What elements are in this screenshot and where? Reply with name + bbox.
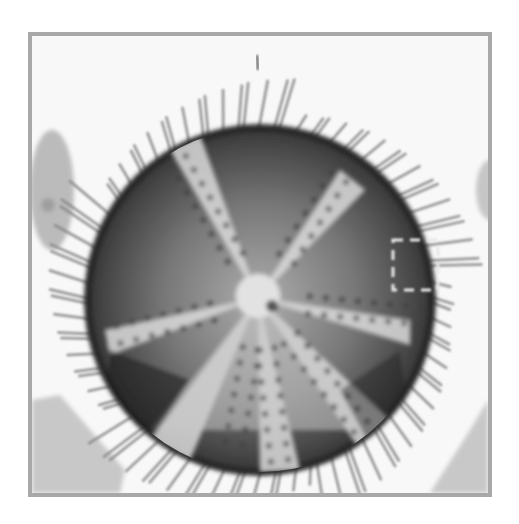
pore-dot [215,208,221,214]
neighbor-fragment-right [476,160,504,220]
pore-dot [254,363,260,369]
pore-dot [207,300,213,306]
pore-dot [294,224,300,230]
pore-dot [168,162,174,168]
pore-dot [266,443,272,449]
pore-dot [352,166,358,172]
pore-dot [199,181,205,187]
pore-dot [231,236,237,242]
pore-dot [328,170,334,176]
pore-dot [191,167,197,173]
pore-dot [320,183,326,189]
pore-dot [191,304,197,310]
pore-dot [176,176,182,182]
sea-urchin-illustration [0,0,519,524]
pore-dot [337,314,343,320]
pore-dot [331,404,337,410]
pore-dot [231,392,237,398]
pore-dot [291,260,297,266]
pore-dot [283,441,289,447]
pore-dot [311,197,317,203]
pore-dot [257,347,263,353]
pore-dot [102,344,108,350]
pore-dot [129,320,135,326]
pore-dot [264,427,270,433]
pore-dot [240,442,246,448]
pore-dot [308,233,314,239]
pore-dot [223,439,229,445]
pore-dot [371,300,377,306]
pore-dot [385,319,391,325]
pore-dot [351,429,357,435]
pore-dot [321,391,327,397]
pore-dot [217,245,223,251]
pore-dot [258,379,264,385]
pore-dot [242,426,248,432]
pore-dot [337,156,343,162]
pore-dot [285,237,291,243]
pore-dot [184,189,190,195]
pore-dot [133,336,139,342]
neighbor-fragment-bottom-right [430,400,488,493]
pore-dot [279,409,285,415]
pore-dot [417,322,423,328]
pore-dot [317,220,323,226]
pore-dot [145,316,151,322]
pore-dot [341,417,347,423]
pore-dot [113,323,119,329]
pore-dot [369,317,375,323]
pore-dot [326,206,332,212]
pore-dot [387,301,393,307]
pore-dot [281,425,287,431]
pore-dot [271,345,277,351]
pore-dot [164,329,170,335]
pore-dot [237,360,243,366]
pore-dot [314,356,320,362]
pore-dot [223,222,229,228]
pore-dot [294,330,300,336]
pore-dot [334,193,340,199]
pore-dot [305,310,311,316]
pore-dot [304,343,310,349]
pore-dot [339,297,345,303]
neighbor-fragment-bottom-left [32,395,125,493]
pore-dot [268,459,274,465]
pore-dot [285,457,291,463]
pore-dot [301,366,307,372]
pore-dot [343,179,349,185]
pore-dot [160,312,166,318]
pore-dot [228,407,234,413]
pore-dot [275,377,281,383]
pore-dot [300,247,306,253]
pore-dot [355,298,361,304]
pore-dot [183,153,189,159]
pore-dot [245,410,251,416]
pore-dot [225,259,231,265]
pore-dot [240,250,246,256]
pore-dot [180,325,186,331]
pore-dot [321,312,327,318]
pore-dot [277,393,283,399]
pore-dot [196,321,202,327]
pore-dot [240,344,246,350]
pore-dot [200,217,206,223]
pore-dot [248,395,254,401]
pore-dot [276,251,282,257]
pore-dot [251,379,257,385]
pore-dot [419,305,425,311]
pore-dot [353,315,359,321]
pore-dot [323,295,329,301]
pore-dot [208,231,214,237]
pore-dot [220,455,226,461]
pore-dot [149,333,155,339]
pore-dot [260,395,266,401]
pore-dot [281,341,287,347]
pore-dot [334,381,340,387]
pore-dot [118,340,124,346]
pore-dot [207,195,213,201]
pore-dot [225,423,231,429]
pore-dot [176,308,182,314]
pore-dot [234,376,240,382]
pore-dot [307,293,313,299]
pore-dot [401,320,407,326]
